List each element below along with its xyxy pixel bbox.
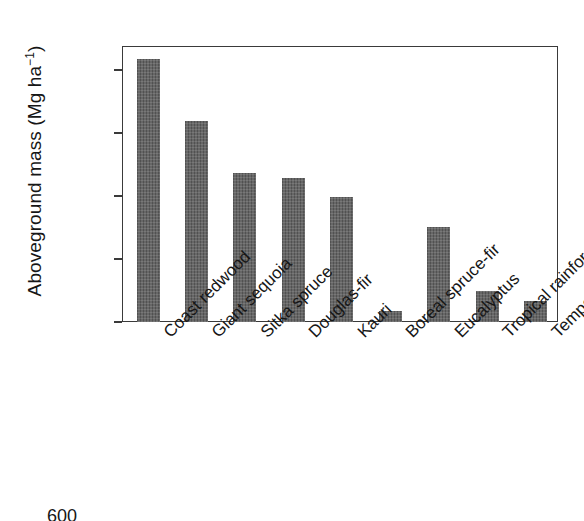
bar-chart-figure: Aboveground mass (Mg ha−1) 0100020003000… [0,0,584,521]
x-axis-label: Kauri [354,300,396,342]
cropped-next-figure-tick-label: 600 [47,503,77,521]
x-axis-labels: Coast redwoodGiant sequoiaSitka spruceDo… [0,0,584,521]
